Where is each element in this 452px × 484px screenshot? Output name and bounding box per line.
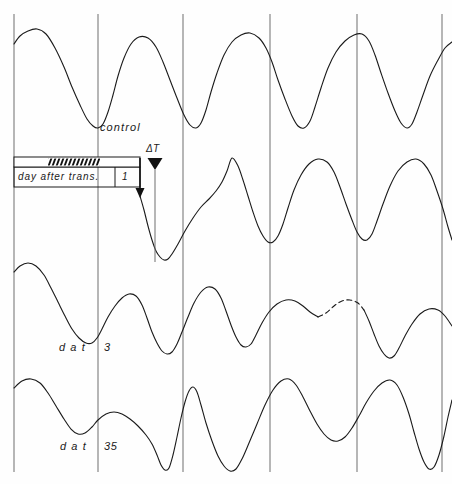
label-dat-3-value: 3 (104, 341, 111, 353)
label-dat-3: d a t (59, 341, 86, 353)
label-day-after-trans: day after trans. (18, 171, 99, 182)
label-control: control (100, 121, 141, 133)
dark-phase-hatching (48, 159, 100, 166)
recording-chart (0, 0, 452, 484)
label-delta-t: ΔT (146, 143, 160, 154)
label-dat-35-value: 35 (104, 440, 117, 452)
label-day-after-trans-value: 1 (122, 171, 128, 182)
label-dat-35: d a t (60, 440, 87, 452)
figure-background (0, 0, 452, 484)
